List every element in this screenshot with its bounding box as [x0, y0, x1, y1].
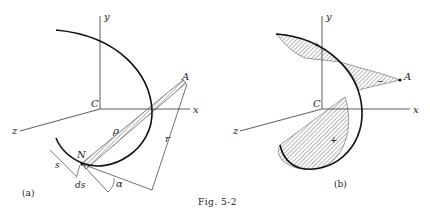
panel-b-label: (b): [334, 179, 347, 189]
x-label-a: x: [193, 104, 199, 115]
s-dimension: [50, 150, 76, 176]
s-label: s: [55, 160, 60, 170]
alpha-arc: [108, 178, 114, 192]
z-axis-a: [20, 109, 100, 131]
sign-top: +: [313, 40, 320, 49]
figure-caption: Fig. 5-2: [198, 197, 237, 207]
y-label-b: y: [325, 11, 332, 22]
x-label-b: x: [413, 104, 419, 115]
figure-5-2: y x z C A N ρ r s ds α (a) y x z C A + −…: [0, 0, 430, 217]
rho-label: ρ: [112, 125, 119, 136]
alpha-label: α: [116, 178, 123, 189]
sign-bottom: +: [330, 135, 338, 145]
hatch-region-top: [276, 34, 340, 62]
origin-label-a: C: [91, 98, 99, 109]
normal-line: [82, 164, 108, 192]
panel-b: y x z C A + − + (b): [232, 11, 419, 189]
panel-a: y x z C A N ρ r s ds α (a): [11, 11, 199, 198]
point-a-label-b: A: [403, 71, 411, 82]
rho-band: [82, 80, 186, 169]
panel-a-label: (a): [22, 188, 34, 198]
hatch-region-middle: [340, 62, 400, 90]
sign-middle: −: [377, 77, 384, 86]
z-label-a: z: [11, 125, 18, 136]
ds-label: ds: [75, 180, 86, 190]
y-label-a: y: [103, 11, 110, 22]
point-a-dot-b: [398, 78, 401, 81]
z-label-b: z: [232, 125, 239, 136]
point-n-label: N: [76, 149, 87, 160]
origin-label-b: C: [313, 98, 321, 109]
point-a-label-a: A: [181, 71, 189, 82]
ds-tick: [76, 165, 80, 178]
